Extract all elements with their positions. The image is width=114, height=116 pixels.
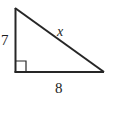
side-label-hypotenuse: x [57, 25, 63, 39]
triangle-drawing [0, 0, 114, 116]
triangle-side-hypotenuse [15, 8, 104, 72]
side-label-horizontal-leg: 8 [55, 81, 63, 96]
right-angle-square-icon [15, 61, 26, 72]
right-triangle-figure: 7 x 8 [0, 0, 114, 116]
side-label-vertical-leg: 7 [1, 33, 9, 48]
